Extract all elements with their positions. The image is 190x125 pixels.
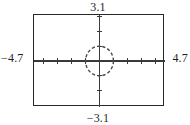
viewing-window-figure: 3.1 −4.7 4.7 −3.1	[0, 0, 190, 125]
calculator-screen-frame	[33, 14, 164, 106]
plot-canvas	[34, 15, 165, 107]
window-xmin-label: −4.7	[1, 52, 24, 64]
window-ymax-label: 3.1	[6, 1, 190, 13]
window-ymin-label: −3.1	[6, 112, 190, 124]
window-xmax-label: 4.7	[172, 52, 188, 64]
axes-group	[34, 15, 165, 107]
